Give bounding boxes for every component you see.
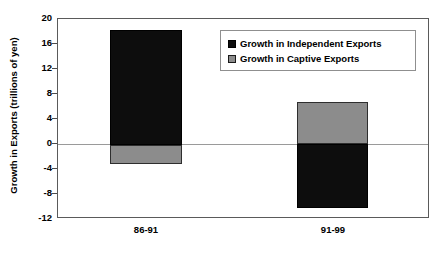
bar-segment-independent-91-99 [297, 144, 368, 208]
plot-area: Growth in Independent Exports Growth in … [57, 18, 429, 218]
legend-label: Growth in Independent Exports [240, 38, 381, 49]
bar-segment-captive-91-99 [297, 102, 368, 144]
y-tick-label: 20 [26, 13, 52, 23]
y-tick-label: -12 [26, 213, 52, 223]
chart-figure: Growth in Exports (trillions of yen) 20 … [0, 0, 446, 253]
y-tick-label: -8 [26, 188, 52, 198]
legend-item-captive: Growth in Captive Exports [228, 53, 408, 64]
legend-item-independent: Growth in Independent Exports [228, 38, 408, 49]
chart-legend: Growth in Independent Exports Growth in … [220, 30, 416, 71]
y-tick-label: -4 [26, 163, 52, 173]
bar-segment-captive-86-91 [110, 145, 182, 164]
y-tick-label: 12 [26, 63, 52, 73]
y-axis-title: Growth in Exports (trillions of yen) [8, 11, 19, 221]
x-tick-label-91-99: 91-99 [288, 224, 378, 235]
black-square-icon [228, 40, 236, 48]
y-tick-label: 8 [26, 88, 52, 98]
x-tick-label-86-91: 86-91 [101, 224, 191, 235]
y-tick-label: 4 [26, 113, 52, 123]
y-axis-tick-labels: 20 16 12 8 4 0 -4 -8 -12 [22, 0, 52, 253]
bar-segment-independent-86-91 [110, 30, 182, 145]
legend-label: Growth in Captive Exports [240, 53, 359, 64]
y-tick-label: 16 [26, 38, 52, 48]
y-tick-label: 0 [26, 138, 52, 148]
gray-square-icon [228, 55, 236, 63]
